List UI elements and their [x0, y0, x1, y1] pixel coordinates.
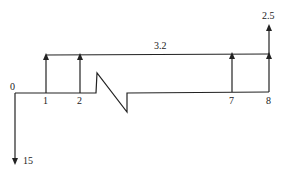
period-label-0: 0: [10, 81, 15, 92]
outflow-arrowhead-icon: [12, 158, 18, 165]
period-label-2: 2: [77, 95, 82, 106]
cash-flow-diagram: 0 1 2 7 8 3.2 2.5 15: [0, 0, 281, 173]
period-label-7: 7: [229, 95, 234, 106]
time-axis: [15, 73, 269, 112]
period-label-1: 1: [43, 95, 48, 106]
final-extra-value-label: 2.5: [262, 10, 275, 21]
uniform-value-label: 3.2: [154, 40, 167, 51]
outflow-value-label: 15: [23, 155, 33, 166]
period-label-8: 8: [266, 95, 271, 106]
inflow-arrows: [46, 28, 269, 93]
